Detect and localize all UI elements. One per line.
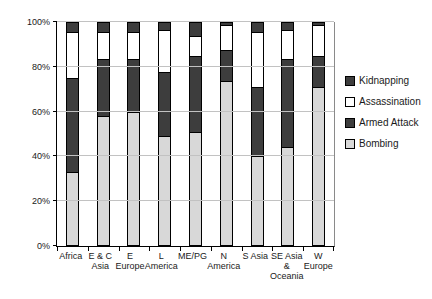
x-axis-label-line: SE Asia: [270, 251, 304, 261]
y-tick-mark: [53, 245, 57, 246]
bar-segment-assassination: [67, 32, 78, 79]
x-axis-label-line: America: [207, 261, 240, 271]
bars-container: [57, 22, 334, 246]
bar-segment-armed-attack: [190, 56, 201, 131]
x-axis-label-line: Africa: [56, 251, 86, 261]
y-axis-label-80: 80%: [32, 62, 50, 71]
x-axis-label-line: Asia: [86, 261, 116, 271]
x-axis-label-line: Europe: [115, 261, 145, 271]
x-axis-label-line: &: [270, 261, 304, 271]
bar-segment-assassination: [98, 32, 109, 59]
x-axis-label-s-asia: S Asia: [240, 251, 270, 281]
x-axis-label-n-america: NAmerica: [207, 251, 240, 281]
x-axis-label-w-europe: WEurope: [303, 251, 333, 281]
y-axis-label-20: 20%: [32, 197, 50, 206]
bar-segment-assassination: [252, 32, 263, 88]
x-axis-label-line: S Asia: [240, 251, 270, 261]
bar-l-america: [158, 22, 171, 246]
bar-s-asia: [251, 22, 264, 246]
x-axis-label-me-pg: ME/PG: [178, 251, 208, 281]
stacked-bar-chart: 0%20%40%60%80%100% AfricaE & CAsiaEEurop…: [0, 0, 432, 299]
bar-segment-bombing: [190, 132, 201, 245]
bar-segment-kidnapping: [159, 23, 170, 30]
bar-segment-assassination: [190, 36, 201, 56]
x-axis-label-line: ME/PG: [178, 251, 208, 261]
legend-item-assassination: Assassination: [345, 97, 421, 107]
bar-segment-bombing: [98, 116, 109, 245]
x-axis-label-line: Europe: [303, 261, 333, 271]
bar-se-asia-oceania: [281, 22, 294, 246]
category-slot-se-asia-oceania: [272, 22, 303, 246]
gridline-20: [57, 200, 334, 201]
category-slot-e-europe: [119, 22, 150, 246]
x-axis-label-e-c-asia: E & CAsia: [86, 251, 116, 281]
x-axis-label-line: E: [115, 251, 145, 261]
x-axis-label-line: America: [145, 261, 178, 271]
bar-me-pg: [189, 22, 202, 246]
bar-segment-assassination: [313, 25, 324, 56]
x-axis-label-l-america: LAmerica: [145, 251, 178, 281]
legend-label-armed-attack: Armed Attack: [359, 118, 418, 128]
gridline-100: [57, 21, 334, 22]
category-slot-l-america: [149, 22, 180, 246]
legend-swatch-armed-attack: [345, 118, 355, 128]
category-slot-s-asia: [242, 22, 273, 246]
legend: KidnappingAssassinationArmed AttackBombi…: [345, 76, 421, 160]
y-axis-label-60: 60%: [32, 107, 50, 116]
category-slot-e-c-asia: [88, 22, 119, 246]
bar-segment-kidnapping: [98, 23, 109, 32]
bar-segment-assassination: [128, 32, 139, 59]
x-axis-label-line: Oceania: [270, 271, 304, 281]
legend-item-armed-attack: Armed Attack: [345, 118, 421, 128]
bar-segment-bombing: [221, 81, 232, 245]
category-slot-africa: [57, 22, 88, 246]
bar-segment-armed-attack: [282, 59, 293, 148]
bar-segment-armed-attack: [98, 59, 109, 117]
bar-segment-assassination: [282, 30, 293, 59]
bar-e-c-asia: [97, 22, 110, 246]
bar-segment-armed-attack: [159, 72, 170, 136]
legend-swatch-kidnapping: [345, 76, 355, 86]
bar-segment-kidnapping: [190, 23, 201, 36]
bar-e-europe: [127, 22, 140, 246]
y-tick-mark: [53, 21, 57, 22]
bar-segment-kidnapping: [252, 23, 263, 32]
legend-swatch-assassination: [345, 97, 355, 107]
plot-area: [56, 22, 335, 247]
bar-n-america: [220, 22, 233, 246]
gridline-60: [57, 111, 334, 112]
x-axis-label-e-europe: EEurope: [115, 251, 145, 281]
legend-label-kidnapping: Kidnapping: [359, 76, 409, 86]
bar-segment-armed-attack: [67, 78, 78, 171]
legend-item-bombing: Bombing: [345, 139, 421, 149]
bar-segment-bombing: [159, 136, 170, 245]
category-slot-w-europe: [303, 22, 334, 246]
y-axis-label-0: 0%: [37, 242, 50, 251]
bar-segment-kidnapping: [67, 23, 78, 32]
category-slot-me-pg: [180, 22, 211, 246]
x-axis-label-africa: Africa: [56, 251, 86, 281]
bar-africa: [66, 22, 79, 246]
bar-segment-bombing: [67, 172, 78, 245]
y-tick-mark: [53, 155, 57, 156]
x-axis-label-line: N: [207, 251, 240, 261]
x-tick-mark: [333, 247, 334, 251]
x-axis-label-line: L: [145, 251, 178, 261]
x-axis-label-line: E & C: [86, 251, 116, 261]
legend-label-assassination: Assassination: [359, 97, 421, 107]
legend-label-bombing: Bombing: [359, 139, 398, 149]
y-tick-mark: [53, 66, 57, 67]
y-tick-mark: [53, 200, 57, 201]
y-axis-label-40: 40%: [32, 152, 50, 161]
y-tick-mark: [53, 111, 57, 112]
gridline-40: [57, 155, 334, 156]
bar-segment-bombing: [128, 112, 139, 245]
x-axis-label-se-asia-oceania: SE Asia&Oceania: [270, 251, 304, 281]
gridline-80: [57, 66, 334, 67]
y-axis: 0%20%40%60%80%100%: [0, 22, 52, 246]
x-axis: AfricaE & CAsiaEEuropeLAmericaME/PGNAmer…: [56, 251, 333, 281]
y-axis-label-100: 100%: [27, 18, 50, 27]
bar-segment-armed-attack: [252, 87, 263, 156]
legend-swatch-bombing: [345, 139, 355, 149]
bar-segment-kidnapping: [128, 23, 139, 32]
